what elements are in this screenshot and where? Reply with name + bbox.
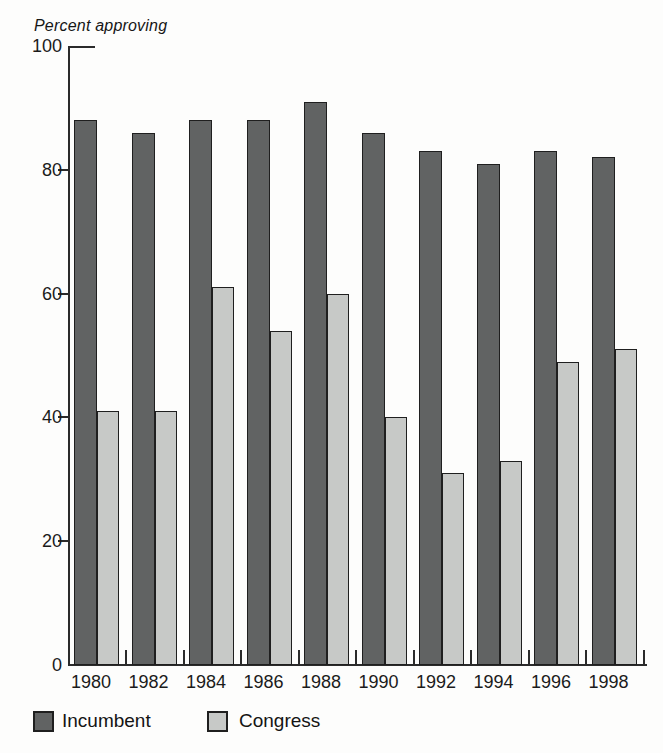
x-axis-tick [183, 650, 185, 664]
bar-incumbent-1986 [247, 120, 270, 665]
x-axis-category-label: 1992 [409, 671, 463, 693]
y-axis-tick-label: 40 [12, 406, 62, 428]
bar-incumbent-1990 [362, 133, 385, 665]
x-axis-tick [125, 650, 127, 664]
bar-congress-1984 [212, 287, 234, 665]
bar-congress-1988 [327, 294, 349, 665]
plot-area: 0204060801001980198219841986198819901992… [0, 0, 663, 753]
x-axis-category-label: 1984 [179, 671, 233, 693]
x-axis-tick [528, 650, 530, 664]
x-axis-category-label: 1986 [237, 671, 291, 693]
bar-incumbent-1992 [419, 151, 442, 665]
x-axis-category-label: 1980 [64, 671, 118, 693]
bar-congress-1998 [615, 349, 637, 665]
bar-incumbent-1982 [132, 133, 155, 665]
x-axis-tick [240, 650, 242, 664]
x-axis-category-label: 1998 [582, 671, 636, 693]
y-axis-line [68, 46, 70, 666]
bar-incumbent-1980 [74, 120, 97, 665]
x-axis-tick [643, 650, 645, 664]
legend-swatch-congress [207, 711, 228, 732]
legend-swatch-incumbent [33, 711, 54, 732]
chart-figure: Percent approving 0204060801001980198219… [0, 0, 663, 753]
bar-congress-1996 [557, 362, 579, 665]
bar-congress-1986 [270, 331, 292, 665]
x-axis-tick [355, 650, 357, 664]
bar-congress-1982 [155, 411, 177, 665]
y-axis-tick-label: 0 [12, 654, 62, 676]
legend-label-congress: Congress [239, 709, 320, 733]
legend-label-incumbent: Incumbent [62, 709, 151, 733]
y-axis-tick-label: 60 [12, 283, 62, 305]
bar-congress-1994 [500, 461, 522, 665]
x-axis-tick [413, 650, 415, 664]
x-axis-tick [470, 650, 472, 664]
x-axis-category-label: 1982 [122, 671, 176, 693]
bar-incumbent-1994 [477, 164, 500, 665]
bar-incumbent-1998 [592, 157, 615, 665]
x-axis-tick [298, 650, 300, 664]
bar-incumbent-1984 [189, 120, 212, 665]
x-axis-category-label: 1990 [352, 671, 406, 693]
x-axis-category-label: 1988 [294, 671, 348, 693]
y-axis-top-tick [70, 46, 95, 48]
y-axis-tick-label: 100 [12, 35, 62, 57]
x-axis-category-label: 1996 [524, 671, 578, 693]
y-axis-tick-label: 20 [12, 530, 62, 552]
x-axis-tick [585, 650, 587, 664]
bar-congress-1990 [385, 417, 407, 665]
y-axis-tick-label: 80 [12, 159, 62, 181]
bar-congress-1980 [97, 411, 119, 665]
bar-congress-1992 [442, 473, 464, 665]
x-axis-category-label: 1994 [467, 671, 521, 693]
bar-incumbent-1988 [304, 102, 327, 665]
bar-incumbent-1996 [534, 151, 557, 665]
